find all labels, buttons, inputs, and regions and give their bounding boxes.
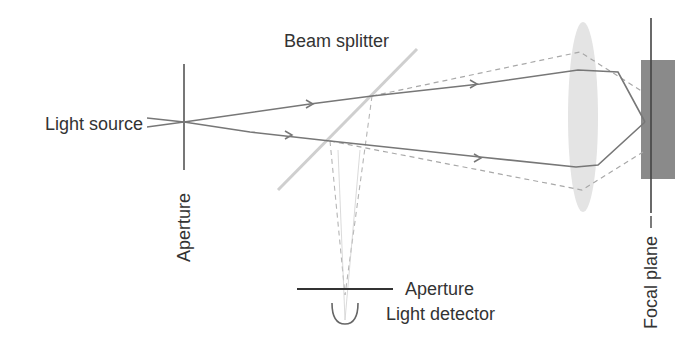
source-ray-lower [147,122,184,127]
source-aperture-label: Aperture [174,193,194,262]
detector-aperture-label: Aperture [405,279,474,299]
dashed-ray-upper [372,52,643,96]
beam-splitter-plate [278,49,417,190]
source-ray-upper [147,118,184,122]
beam-splitter-label: Beam splitter [284,31,389,51]
objective-lens [568,22,598,212]
arrow-icon [474,154,481,162]
arrow-icon [285,131,292,139]
confocal-diagram: Light source Beam splitter Aperture Aper… [0,0,699,344]
light-detector-label: Light detector [386,304,495,324]
dashed-detector-ray-right [345,96,372,295]
detector-ray-inner-2 [345,150,360,320]
specimen-block [641,60,675,179]
light-source-label: Light source [45,114,143,134]
focal-plane-label: Focal plane [641,236,661,329]
